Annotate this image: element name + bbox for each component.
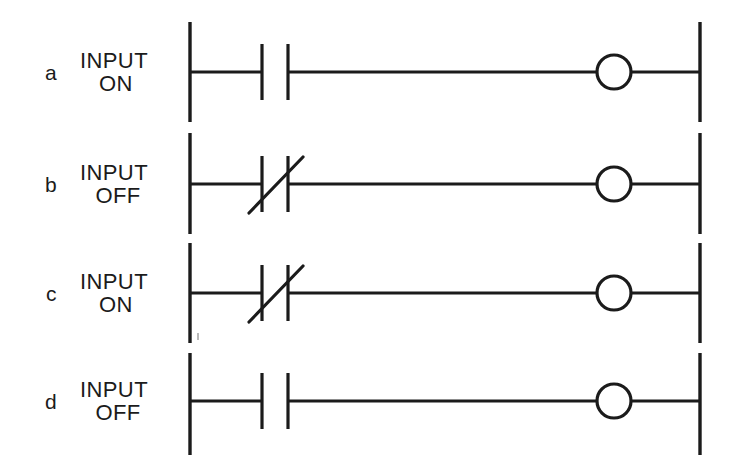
ladder-logic-diagram: a INPUT ON b INPUT OFF <box>0 0 740 473</box>
rung-input-label-line1-c: INPUT <box>80 269 148 294</box>
ladder-rung-b: b INPUT OFF <box>45 133 700 234</box>
rung-input-label-line2-c: ON <box>99 292 133 317</box>
scan-artifact-speck <box>197 333 199 340</box>
rung-input-label-line1-a: INPUT <box>80 48 148 73</box>
ladder-rung-d: d INPUT OFF <box>45 353 700 455</box>
ladder-diagram-canvas: a INPUT ON b INPUT OFF <box>0 0 740 473</box>
rung-id-label-c: c <box>46 282 57 305</box>
rung-id-label-d: d <box>45 390 57 413</box>
ladder-rung-a: a INPUT ON <box>45 22 700 122</box>
output-coil-b <box>597 167 631 201</box>
rung-input-label-line2-a: ON <box>99 71 133 96</box>
output-coil-a <box>597 55 631 89</box>
ladder-rung-c: c INPUT ON <box>46 243 700 343</box>
rung-input-label-line1-b: INPUT <box>80 160 148 185</box>
output-coil-d <box>597 384 631 418</box>
rung-input-label-line1-d: INPUT <box>80 377 148 402</box>
rung-id-label-a: a <box>45 61 57 84</box>
output-coil-c <box>597 276 631 310</box>
rung-id-label-b: b <box>45 173 57 196</box>
rung-input-label-line2-b: OFF <box>95 183 140 208</box>
rung-input-label-line2-d: OFF <box>95 400 140 425</box>
